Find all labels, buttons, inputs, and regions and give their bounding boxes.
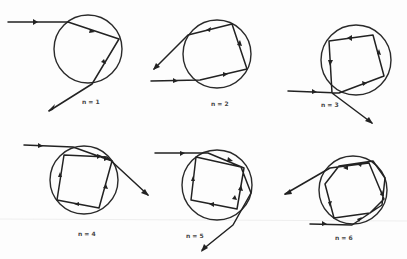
direction-arrow-icon (74, 202, 79, 206)
direction-arrow-icon (209, 202, 214, 207)
panel-label: n = 5 (186, 232, 204, 239)
panel-n1: n = 1 (8, 15, 122, 111)
diagram-canvas: n = 1 n = 2 n = 3 (0, 0, 407, 259)
light-ray-path (288, 35, 384, 123)
panel-n6: n = 6 (284, 156, 387, 241)
scan-artifact-line (0, 219, 407, 221)
direction-arrow-icon (206, 27, 211, 32)
panel-label: n = 1 (82, 98, 100, 105)
light-ray-path (285, 161, 385, 225)
panel-n5: n = 5 (155, 150, 252, 252)
panel-n2: n = 2 (151, 20, 251, 107)
circle-boundary (183, 20, 251, 88)
direction-arrow-icon (227, 157, 233, 162)
light-ray-path (24, 145, 148, 208)
light-ray-path (8, 22, 119, 111)
direction-arrow-icon (362, 81, 367, 86)
light-ray-path (151, 24, 247, 81)
panel-label: n = 6 (335, 234, 353, 241)
panel-label: n = 3 (321, 101, 339, 108)
circle-boundary (54, 15, 122, 83)
direction-arrow-icon (347, 35, 352, 41)
direction-arrow-icon (232, 195, 237, 200)
direction-arrow-icon (238, 185, 243, 191)
panel-label: n = 4 (78, 230, 96, 237)
ray-reflection-figure: n = 1 n = 2 n = 3 (0, 0, 407, 259)
direction-arrow-icon (223, 72, 228, 77)
direction-arrow-icon (33, 19, 38, 25)
panel-label: n = 2 (211, 100, 229, 107)
direction-arrow-icon (322, 221, 327, 226)
panel-n4: n = 4 (24, 143, 149, 237)
panel-n3: n = 3 (288, 25, 391, 124)
